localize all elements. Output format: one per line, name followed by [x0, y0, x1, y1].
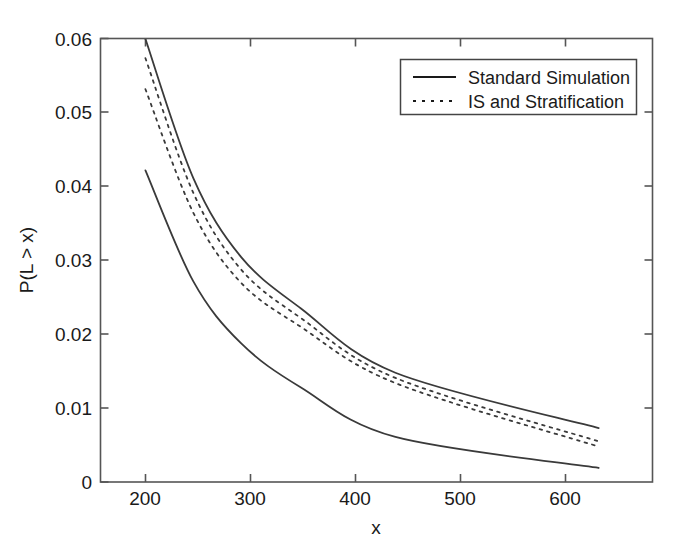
x-tick-label: 300	[234, 488, 266, 509]
x-axis-title: x	[371, 517, 381, 538]
x-tick-label: 400	[339, 488, 371, 509]
y-tick-label: 0.05	[55, 102, 92, 123]
legend-item-label: Standard Simulation	[468, 68, 630, 88]
x-tick-label: 500	[444, 488, 476, 509]
x-tick-label: 600	[549, 488, 581, 509]
y-tick-label: 0	[81, 472, 92, 493]
y-tick-label: 0.03	[55, 250, 92, 271]
y-tick-label: 0.02	[55, 324, 92, 345]
chart-legend[interactable]: Standard Simulation IS and Stratificatio…	[401, 60, 637, 115]
y-axis-title: P(L > x)	[16, 227, 37, 293]
legend-item-label: IS and Stratification	[468, 92, 624, 112]
x-tick-label: 200	[129, 488, 161, 509]
y-tick-label: 0.04	[55, 176, 92, 197]
y-tick-label: 0.06	[55, 29, 92, 50]
figure-canvas: 200 300 400 500 600 0 0.01 0.02 0.03 0.0…	[0, 0, 686, 551]
chart-plot: 200 300 400 500 600 0 0.01 0.02 0.03 0.0…	[0, 0, 686, 551]
y-tick-label: 0.01	[55, 398, 92, 419]
